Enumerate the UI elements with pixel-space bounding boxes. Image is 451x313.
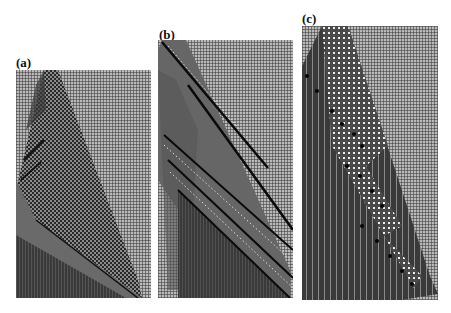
panel-a-ca-diagram [16,70,151,298]
panel-a-pattern [16,70,151,298]
panel-a-label: (a) [16,56,31,69]
panel-c-pattern [302,26,438,300]
panel-c-ca-diagram [302,26,438,300]
panel-b-pattern [158,40,293,298]
panel-b-ca-diagram [158,40,293,298]
panel-c-label: (c) [302,12,316,25]
